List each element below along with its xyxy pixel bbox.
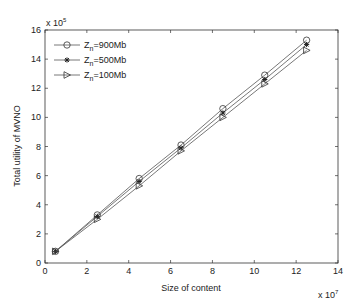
y-tick-label: 0 bbox=[36, 258, 41, 268]
y-tick-label: 2 bbox=[36, 229, 41, 239]
x-axis-multiplier: x 107 bbox=[318, 289, 339, 300]
legend-item: Zn=100Mb bbox=[54, 70, 126, 82]
legend-label: Zn=100Mb bbox=[84, 70, 126, 82]
x-tick-label: 6 bbox=[168, 266, 173, 276]
legend-item: Zn=900Mb bbox=[54, 40, 126, 52]
x-tick-label: 2 bbox=[84, 266, 89, 276]
x-tick-label: 12 bbox=[291, 266, 301, 276]
y-tick-label: 14 bbox=[31, 54, 41, 64]
star-marker-icon bbox=[304, 42, 309, 47]
y-tick-label: 8 bbox=[36, 142, 41, 152]
plot-area bbox=[52, 37, 310, 255]
y-tick-label: 6 bbox=[36, 171, 41, 181]
x-tick-label: 10 bbox=[249, 266, 259, 276]
y-axis-multiplier: x 105 bbox=[46, 17, 67, 28]
x-tick-label: 4 bbox=[126, 266, 131, 276]
triangle-right-marker-icon bbox=[304, 47, 311, 54]
legend-label: Zn=500Mb bbox=[84, 55, 126, 67]
legend-item: Zn=500Mb bbox=[54, 55, 126, 67]
axes: 024681012140246810121416 bbox=[31, 25, 343, 276]
line-chart: 024681012140246810121416 Zn=900MbZn=500M… bbox=[0, 0, 360, 308]
x-tick-label: 0 bbox=[42, 266, 47, 276]
x-axis-label: Size of content bbox=[161, 283, 221, 293]
y-axis-label: Total utility of MVNO bbox=[12, 105, 22, 187]
x-tick-label: 8 bbox=[210, 266, 215, 276]
y-tick-label: 12 bbox=[31, 83, 41, 93]
legend-label: Zn=900Mb bbox=[84, 40, 126, 52]
y-tick-label: 16 bbox=[31, 25, 41, 35]
y-tick-label: 4 bbox=[36, 200, 41, 210]
legend: Zn=900MbZn=500MbZn=100Mb bbox=[54, 40, 126, 82]
x-tick-label: 14 bbox=[333, 266, 343, 276]
star-marker-icon bbox=[64, 57, 69, 62]
y-tick-label: 10 bbox=[31, 112, 41, 122]
